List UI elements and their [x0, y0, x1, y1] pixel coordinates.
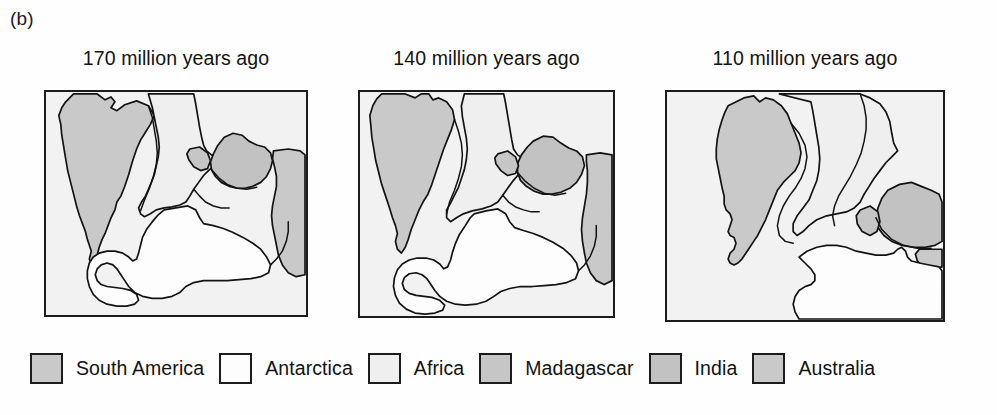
legend-label-india: India [695, 357, 738, 380]
shelf-line-interior [503, 195, 539, 212]
shelf-line-interior [194, 189, 229, 208]
legend-swatch-south-america [30, 353, 63, 384]
legend: South America Antarctica Africa Madagasc… [30, 348, 890, 388]
legend-item-australia: Australia [752, 353, 890, 384]
legend-item-africa: Africa [368, 353, 479, 384]
landmass-madagascar [856, 206, 880, 235]
landmass-india [518, 136, 585, 194]
legend-swatch-india [649, 353, 682, 384]
legend-item-south-america: South America [30, 353, 219, 384]
panel-letter: (b) [10, 8, 34, 30]
legend-swatch-africa [368, 353, 401, 384]
landmass-australia [272, 149, 305, 277]
legend-label-south-america: South America [76, 357, 204, 380]
figure-root: (b) 170 million years ago 140 million ye… [0, 0, 997, 415]
landmass-south-america [716, 96, 801, 265]
legend-item-madagascar: Madagascar [479, 353, 648, 384]
map-title-140mya: 140 million years ago [358, 47, 615, 70]
landmass-antarctica [87, 206, 270, 306]
legend-label-madagascar: Madagascar [525, 357, 633, 380]
landmass-antarctica [393, 209, 578, 314]
legend-swatch-australia [752, 353, 785, 384]
landmass-india [876, 182, 942, 247]
map-title-110mya: 110 million years ago [665, 47, 945, 70]
map-title-170mya: 170 million years ago [44, 47, 308, 70]
legend-label-australia: Australia [798, 357, 875, 380]
legend-label-africa: Africa [414, 357, 464, 380]
legend-swatch-antarctica [219, 353, 252, 384]
legend-item-india: India [649, 353, 753, 384]
map-panel-170mya [44, 90, 308, 317]
landmass-africa [447, 94, 532, 222]
legend-item-antarctica: Antarctica [219, 353, 368, 384]
map-panel-140mya [358, 90, 615, 318]
landmass-south-america [370, 94, 455, 253]
map-panel-110mya [665, 90, 945, 322]
landmass-india [210, 133, 272, 188]
landmass-south-america [59, 94, 155, 265]
legend-label-antarctica: Antarctica [265, 357, 353, 380]
legend-swatch-madagascar [479, 353, 512, 384]
landmass-australia [581, 153, 612, 285]
